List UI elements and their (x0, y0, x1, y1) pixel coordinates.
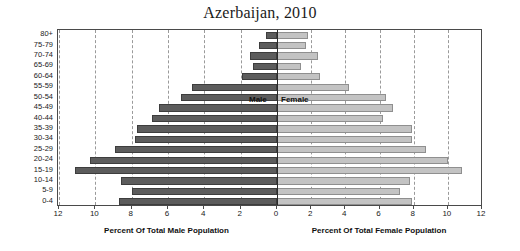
x-tick-female-10: 10 (442, 209, 451, 218)
bar-female-20-24 (277, 157, 448, 164)
bar-row (58, 115, 481, 122)
x-tick-male-8-mark (131, 206, 132, 209)
x-tick-male-10-mark (94, 206, 95, 209)
x-tick-female-4: 4 (342, 209, 346, 218)
bar-male-10-14 (121, 177, 277, 184)
x-tick-male-2: 2 (237, 209, 241, 218)
bar-female-25-29 (277, 146, 426, 153)
x-tick-female-12: 12 (477, 209, 486, 218)
bar-row (58, 84, 481, 91)
bar-male-80+ (266, 32, 277, 39)
x-tick-female-6-mark (379, 206, 380, 209)
x-tick-male-0: 0 (274, 209, 278, 218)
y-tick-70-74: 70-74 (0, 50, 53, 59)
bar-row (58, 63, 481, 70)
x-tick-male-4-mark (203, 206, 204, 209)
y-tick-20-24: 20-24 (0, 154, 53, 163)
bar-female-70-74 (277, 52, 318, 59)
x-tick-female-6: 6 (376, 209, 380, 218)
bar-female-40-44 (277, 115, 383, 122)
x-tick-male-2-mark (240, 206, 241, 209)
x-tick-male-12: 12 (54, 209, 63, 218)
y-tick-60-64: 60-64 (0, 71, 53, 80)
bar-row (58, 136, 481, 143)
bar-male-75-79 (259, 42, 277, 49)
center-axis (277, 30, 278, 205)
x-tick-male-12-mark (58, 206, 59, 209)
bar-female-0-4 (277, 198, 412, 205)
bar-row (58, 167, 481, 174)
bar-male-65-69 (253, 63, 277, 70)
x-tick-male-6: 6 (165, 209, 169, 218)
bar-row (58, 188, 481, 195)
bar-female-65-69 (277, 63, 301, 70)
bar-male-0-4 (119, 198, 277, 205)
x-tick-female-12-mark (481, 206, 482, 209)
bar-male-40-44 (152, 115, 277, 122)
bar-row (58, 125, 481, 132)
x-tick-male-4: 4 (201, 209, 205, 218)
y-tick-30-34: 30-34 (0, 133, 53, 142)
bar-row (58, 177, 481, 184)
x-tick-female-8-mark (413, 206, 414, 209)
x-tick-female-2: 2 (308, 209, 312, 218)
y-tick-40-44: 40-44 (0, 113, 53, 122)
x-tick-female-2-mark (310, 206, 311, 209)
y-tick-80+: 80+ (0, 29, 53, 38)
bar-male-5-9 (132, 188, 277, 195)
y-tick-50-54: 50-54 (0, 92, 53, 101)
x-tick-female-10-mark (447, 206, 448, 209)
bar-row (58, 157, 481, 164)
bar-female-30-34 (277, 136, 412, 143)
bar-male-15-19 (75, 167, 277, 174)
x-tick-male-10: 10 (90, 209, 99, 218)
bar-male-20-24 (90, 157, 277, 164)
plot-area: MaleFemale (57, 29, 482, 206)
series-label-female: Female (281, 95, 309, 104)
bar-female-45-49 (277, 104, 393, 111)
bar-row (58, 52, 481, 59)
x-axis-label-female: Percent Of Total Female Population (312, 226, 447, 235)
y-tick-10-14: 10-14 (0, 175, 53, 184)
bar-female-10-14 (277, 177, 410, 184)
chart-title: Azerbaijan, 2010 (0, 4, 520, 22)
x-tick-male-0-mark (276, 206, 277, 209)
bar-female-35-39 (277, 125, 412, 132)
bar-row (58, 198, 481, 205)
population-pyramid-chart: Azerbaijan, 2010 Age Group 80+75-7970-74… (0, 0, 520, 251)
y-tick-35-39: 35-39 (0, 123, 53, 132)
bar-male-30-34 (135, 136, 277, 143)
bar-row (58, 42, 481, 49)
bar-female-75-79 (277, 42, 306, 49)
y-tick-0-4: 0-4 (0, 196, 53, 205)
bar-male-45-49 (159, 104, 277, 111)
bar-male-60-64 (242, 73, 277, 80)
y-tick-75-79: 75-79 (0, 40, 53, 49)
x-axis-label-male: Percent Of Total Male Population (104, 226, 229, 235)
x-tick-male-6-mark (167, 206, 168, 209)
bar-male-35-39 (137, 125, 277, 132)
series-label-male: Male (249, 95, 267, 104)
y-tick-25-29: 25-29 (0, 144, 53, 153)
bar-row (58, 94, 481, 101)
bar-male-55-59 (192, 84, 277, 91)
y-tick-45-49: 45-49 (0, 102, 53, 111)
bar-female-55-59 (277, 84, 349, 91)
y-tick-5-9: 5-9 (0, 185, 53, 194)
x-tick-female-4-mark (344, 206, 345, 209)
bar-female-15-19 (277, 167, 462, 174)
bar-male-70-74 (250, 52, 277, 59)
bar-row (58, 146, 481, 153)
y-tick-65-69: 65-69 (0, 60, 53, 69)
x-tick-female-8: 8 (410, 209, 414, 218)
bar-female-5-9 (277, 188, 400, 195)
bar-female-60-64 (277, 73, 320, 80)
y-tick-15-19: 15-19 (0, 165, 53, 174)
bar-row (58, 73, 481, 80)
bar-female-80+ (277, 32, 308, 39)
y-tick-55-59: 55-59 (0, 81, 53, 90)
bar-male-25-29 (115, 146, 277, 153)
bar-row (58, 32, 481, 39)
bar-row (58, 104, 481, 111)
x-tick-male-8: 8 (128, 209, 132, 218)
